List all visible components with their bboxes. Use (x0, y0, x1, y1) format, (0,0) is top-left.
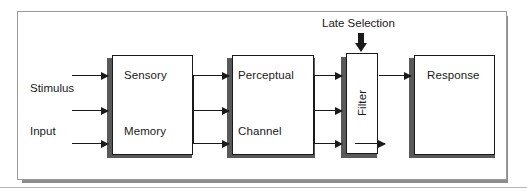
filter-label: Filter (356, 83, 368, 123)
sensory-memory-label-line-1: Sensory (124, 69, 167, 81)
input-arrow-1 (72, 75, 108, 76)
response-label: Response (427, 69, 480, 81)
stage1-to-stage2-arrow-2 (193, 110, 229, 111)
filter-to-response-arrow-bottom (355, 143, 385, 144)
input-arrow-3 (72, 143, 108, 144)
diagram-figure: Stimulus Input Sensory Memory Perceptual… (0, 0, 527, 195)
input-arrow-2 (72, 110, 108, 111)
sensory-memory-label-line-2: Memory (124, 125, 166, 137)
stage1-to-stage2-arrow-3 (193, 143, 229, 144)
late-selection-label: Late Selection (322, 17, 395, 29)
bottom-separator-rule (0, 187, 527, 188)
stage1-output-bus (193, 75, 194, 144)
down-arrow-icon (355, 33, 367, 52)
stage2-to-filter-arrow-2 (314, 110, 342, 111)
stage2-to-filter-arrow-3 (314, 143, 342, 144)
filter-to-response-arrow-top (379, 75, 411, 76)
stage1-to-stage2-arrow-1 (193, 75, 229, 76)
perceptual-channel-label-line-2: Channel (238, 125, 282, 137)
input-label-input: Input (30, 125, 56, 137)
stage2-to-filter-arrow-1 (314, 75, 342, 76)
stage2-output-bus (314, 75, 315, 144)
perceptual-channel-label-line-1: Perceptual (238, 69, 294, 81)
input-label-stimulus: Stimulus (30, 82, 74, 94)
